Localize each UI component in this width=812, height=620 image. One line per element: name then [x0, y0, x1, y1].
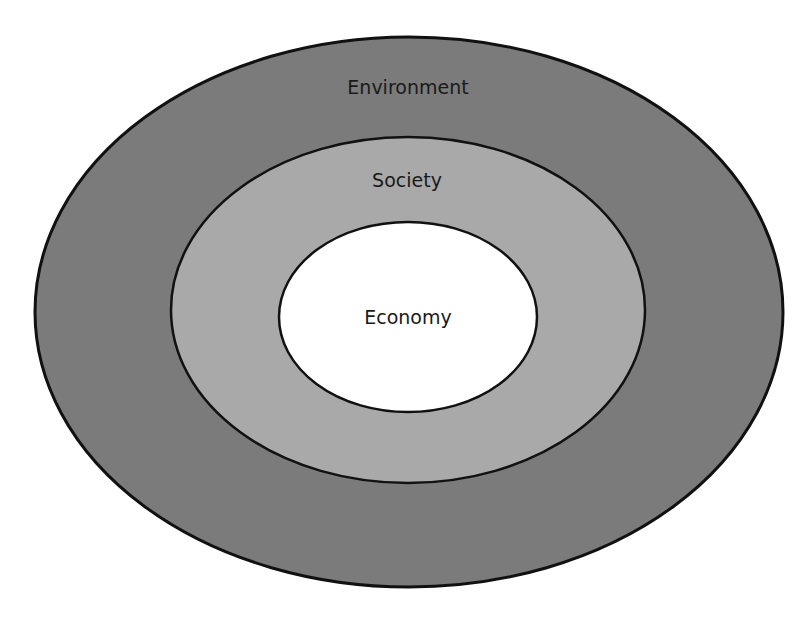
society-label: Society — [372, 169, 442, 191]
economy-label: Economy — [364, 306, 452, 328]
environment-label: Environment — [347, 76, 468, 98]
nested-sustainability-diagram: Environment Society Economy — [0, 0, 812, 620]
